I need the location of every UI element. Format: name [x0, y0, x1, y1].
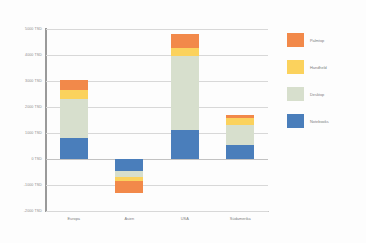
bar-segment-notebooks[interactable] [115, 159, 143, 171]
y-axis-tick-label: 4000 TSD [25, 53, 42, 57]
bar-segment-notebooks[interactable] [60, 138, 88, 159]
legend-color-swatch [287, 33, 304, 47]
legend-item[interactable]: Palmtop [287, 33, 363, 60]
legend-item[interactable]: Handheld [287, 60, 363, 87]
legend-color-swatch [287, 60, 304, 74]
legend-item[interactable]: Notebooks [287, 114, 363, 141]
bar-segment-palmtop[interactable] [60, 80, 88, 90]
bar-group[interactable] [115, 29, 143, 211]
legend-color-swatch [287, 114, 304, 128]
x-axis-tick-label: Südamerika [230, 216, 251, 221]
bar-segment-desktop[interactable] [171, 56, 199, 130]
bar-segment-handheld[interactable] [226, 118, 254, 125]
chart-legend: PalmtopHandheldDesktopNotebooks [287, 33, 363, 141]
y-axis-tick-label: 3000 TSD [25, 79, 42, 83]
bar-segment-palmtop[interactable] [226, 115, 254, 119]
legend-item-label: Notebooks [310, 119, 329, 124]
bar-segment-notebooks[interactable] [171, 130, 199, 159]
y-axis-tick-label: -1000 TSD [24, 183, 42, 187]
y-axis-tick-label: 5000 TSD [25, 27, 42, 31]
bar-group[interactable] [60, 29, 88, 211]
bar-segment-handheld[interactable] [60, 90, 88, 99]
bar-group[interactable] [226, 29, 254, 211]
y-axis-tick-label: -2000 TSD [24, 209, 42, 213]
legend-item[interactable]: Desktop [287, 87, 363, 114]
legend-color-swatch [287, 87, 304, 101]
y-axis-tick-label: 1000 TSD [25, 131, 42, 135]
chart-container: 5000 TSD4000 TSD3000 TSD2000 TSD1000 TSD… [0, 0, 366, 243]
legend-item-label: Desktop [310, 92, 324, 97]
bar-segment-notebooks[interactable] [226, 145, 254, 159]
bar-segment-handheld[interactable] [171, 48, 199, 56]
legend-item-label: Handheld [310, 65, 327, 70]
bar-segment-palmtop[interactable] [115, 181, 143, 193]
y-axis-tick-label: 2000 TSD [25, 105, 42, 109]
x-axis-tick-label: Europa [67, 216, 80, 221]
legend-item-label: Palmtop [310, 38, 324, 43]
plot-area: 5000 TSD4000 TSD3000 TSD2000 TSD1000 TSD… [46, 29, 268, 211]
y-axis-tick-label: 0 TSD [31, 157, 42, 161]
x-axis-tick-label: USA [181, 216, 189, 221]
bar-segment-palmtop[interactable] [171, 34, 199, 48]
bar-group[interactable] [171, 29, 199, 211]
bar-segment-desktop[interactable] [60, 99, 88, 138]
grid-line: -2000 TSD [46, 211, 268, 212]
x-axis-tick-label: Asien [124, 216, 134, 221]
bar-segment-desktop[interactable] [226, 125, 254, 145]
